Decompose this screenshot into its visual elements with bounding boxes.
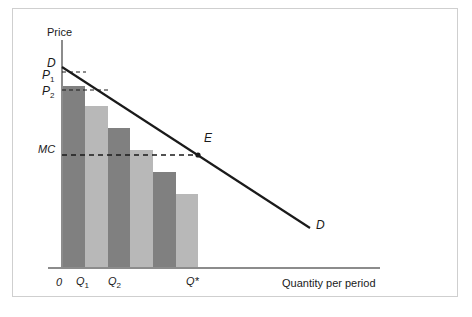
q1-symbol: Q — [76, 275, 85, 287]
p2-subscript: 2 — [50, 91, 54, 100]
p1-label: P1 — [42, 68, 54, 84]
bar-1 — [62, 86, 85, 268]
equilibrium-label: E — [204, 131, 212, 145]
origin-label: 0 — [56, 276, 62, 288]
p1-symbol: P — [42, 68, 50, 82]
demand-bottom-label: D — [316, 218, 325, 232]
y-axis-label: Price — [47, 26, 72, 38]
qstar-label: Q* — [186, 275, 199, 287]
bar-6 — [176, 194, 198, 268]
bars-group — [62, 86, 198, 268]
bar-3 — [108, 128, 130, 268]
x-axis-label: Quantity per period — [282, 277, 376, 289]
q2-subscript: 2 — [117, 281, 121, 290]
p2-symbol: P — [42, 84, 50, 98]
equilibrium-point-marker — [195, 152, 200, 157]
bar-2 — [85, 106, 108, 268]
q2-label: Q2 — [108, 275, 121, 290]
bar-4 — [130, 150, 153, 268]
diagram-canvas — [0, 0, 472, 317]
p2-label: P2 — [42, 84, 54, 100]
q1-label: Q1 — [76, 275, 89, 290]
bar-5 — [153, 172, 176, 268]
mc-label: MC — [38, 143, 55, 155]
q2-symbol: Q — [108, 275, 117, 287]
price-discrimination-figure: Price Quantity per period D D E P1 P2 MC… — [0, 0, 472, 317]
q1-subscript: 1 — [85, 281, 89, 290]
